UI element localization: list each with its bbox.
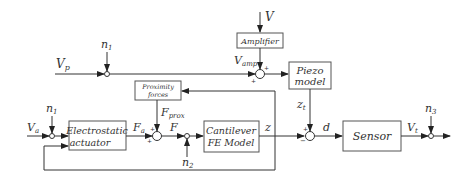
actuator-label-2: actuator <box>70 137 112 148</box>
label-va: Va <box>27 121 39 135</box>
label-f: F <box>169 121 178 134</box>
label-fprox: Fprox <box>160 106 185 120</box>
label-z: z <box>264 121 271 134</box>
piezo-label-1: Piezo <box>295 65 323 76</box>
sign-plus: + <box>147 137 152 144</box>
piezo-label-2: model <box>294 76 325 87</box>
sign-plus: + <box>150 125 155 132</box>
proximity-label-2: forces <box>147 91 169 99</box>
sum-junction-force <box>153 132 162 141</box>
label-zt: zt <box>296 98 306 112</box>
sensor-label: Sensor <box>353 130 392 143</box>
label-fa: Fa <box>132 121 145 135</box>
cantilever-label-2: FE Model <box>207 137 255 148</box>
label-d: d <box>323 121 330 134</box>
label-vt: Vt <box>407 121 418 135</box>
sign-plus: + <box>251 77 256 84</box>
proximity-label-1: Proximity <box>141 83 174 91</box>
sum-junction-n3 <box>429 134 434 139</box>
sign-plus: + <box>264 64 269 71</box>
sign-plus: + <box>303 125 308 132</box>
label-n1-top: n1 <box>101 38 113 52</box>
label-vp: Vp <box>56 57 70 72</box>
label-n2: n2 <box>182 156 194 170</box>
label-vamp: Vamp <box>234 54 258 68</box>
label-v: V <box>265 10 275 24</box>
sum-junction-d <box>306 132 315 141</box>
block-diagram: Vp n1 V Amplifier Vamp + + Piezo model z… <box>0 0 474 179</box>
actuator-label-1: Electrostatic <box>65 125 128 136</box>
vp-path <box>55 52 255 77</box>
label-n3: n3 <box>425 102 437 116</box>
sum-junction-n2 <box>185 134 190 139</box>
cantilever-label-1: Cantilever <box>206 125 258 136</box>
amplifier-label: Amplifier <box>240 37 280 46</box>
label-n1-left: n1 <box>46 102 58 116</box>
sign-minus: − <box>300 137 306 145</box>
sum-junction-n1-top <box>105 72 110 77</box>
sum-junction-n1-left <box>50 134 55 139</box>
